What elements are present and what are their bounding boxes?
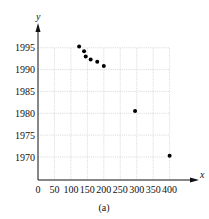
axes bbox=[36, 23, 200, 183]
x-tick-label: 250 bbox=[113, 184, 128, 195]
y-tick-label: 1995 bbox=[15, 42, 35, 53]
y-tick-label: 1980 bbox=[15, 108, 35, 119]
x-tick-label: 350 bbox=[146, 184, 161, 195]
data-point bbox=[77, 44, 81, 48]
scatter-chart: 050100150200250300350400 197019751980198… bbox=[0, 0, 209, 219]
x-tick-label: 0 bbox=[36, 184, 41, 195]
chart-caption: (a) bbox=[98, 202, 109, 214]
y-tick-label: 1975 bbox=[15, 130, 35, 141]
data-point bbox=[95, 60, 99, 64]
y-tick-label: 1970 bbox=[15, 152, 35, 163]
data-point bbox=[82, 49, 86, 53]
data-point bbox=[84, 54, 88, 58]
x-tick-label: 50 bbox=[49, 184, 59, 195]
y-tick-labels: 197019751980198519901995 bbox=[15, 42, 35, 162]
x-tick-label: 300 bbox=[129, 184, 144, 195]
data-points bbox=[77, 44, 171, 157]
y-tick-label: 1990 bbox=[15, 64, 35, 75]
data-point bbox=[133, 109, 137, 113]
data-point bbox=[168, 154, 172, 158]
x-tick-label: 100 bbox=[63, 184, 78, 195]
x-tick-label: 400 bbox=[162, 184, 177, 195]
x-tick-labels: 050100150200250300350400 bbox=[36, 184, 178, 195]
x-axis-arrow-icon bbox=[190, 178, 199, 183]
x-axis-label: x bbox=[199, 169, 205, 180]
y-axis-label: y bbox=[35, 11, 41, 22]
data-point bbox=[102, 64, 106, 68]
y-tick-label: 1985 bbox=[15, 86, 35, 97]
x-tick-label: 150 bbox=[80, 184, 95, 195]
x-tick-label: 200 bbox=[96, 184, 111, 195]
data-point bbox=[89, 58, 93, 62]
y-axis-arrow-icon bbox=[36, 23, 41, 32]
